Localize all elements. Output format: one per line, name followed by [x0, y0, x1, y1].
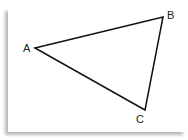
triangle-abc [35, 17, 163, 110]
vertex-label-b: B [167, 9, 174, 21]
triangle-diagram: A B C [0, 0, 188, 140]
vertex-label-a: A [23, 42, 31, 54]
vertex-label-c: C [136, 113, 144, 125]
